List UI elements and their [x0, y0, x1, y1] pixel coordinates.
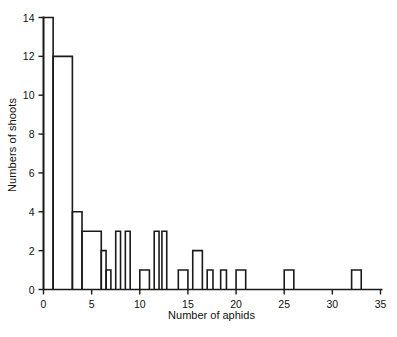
svg-text:30: 30 [327, 298, 339, 310]
histogram-bars [44, 18, 362, 290]
y-axis-title: Numbers of shoots [6, 98, 18, 192]
svg-text:25: 25 [278, 298, 290, 310]
svg-text:12: 12 [23, 50, 35, 62]
svg-text:10: 10 [23, 89, 35, 101]
svg-text:6: 6 [29, 167, 35, 179]
x-axis-title: Number of aphids [43, 309, 380, 321]
axis-lines [44, 17, 383, 290]
y-axis-tick-labels: 02468101214 [23, 12, 35, 296]
svg-text:20: 20 [230, 298, 242, 310]
y-axis-title-wrap: Numbers of shoots [4, 0, 20, 290]
svg-text:15: 15 [182, 298, 194, 310]
histogram-figure: 05101520253035 02468101214 Numbers of sh… [0, 0, 397, 337]
histogram-plot: 05101520253035 02468101214 [0, 0, 397, 337]
svg-text:4: 4 [29, 206, 35, 218]
svg-text:8: 8 [29, 128, 35, 140]
svg-text:5: 5 [89, 298, 95, 310]
svg-text:0: 0 [29, 284, 35, 296]
svg-text:0: 0 [41, 298, 47, 310]
x-axis-tick-labels: 05101520253035 [41, 298, 387, 310]
svg-text:14: 14 [23, 12, 35, 24]
svg-text:2: 2 [29, 245, 35, 257]
svg-text:10: 10 [134, 298, 146, 310]
svg-text:35: 35 [375, 298, 387, 310]
